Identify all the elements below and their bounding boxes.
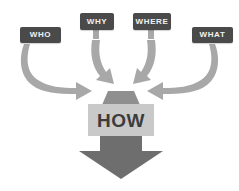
question-box-what-label: WHAT	[200, 31, 226, 39]
output-arrow-icon	[79, 136, 163, 179]
how-banner: HOW	[88, 104, 154, 136]
why-arrow-icon	[91, 40, 114, 84]
diagram-canvas: WHO WHY WHERE WHAT HOW	[0, 0, 239, 191]
question-box-where-label: WHERE	[136, 18, 169, 26]
center-shaft-top	[102, 91, 140, 105]
question-box-what[interactable]: WHAT	[192, 27, 233, 43]
who-arrow-icon	[21, 44, 92, 100]
question-box-where[interactable]: WHERE	[133, 13, 171, 30]
why-connector-stub	[93, 30, 99, 39]
question-box-who[interactable]: WHO	[20, 27, 61, 43]
question-box-who-label: WHO	[30, 31, 51, 39]
where-arrow-icon	[133, 40, 156, 84]
how-label: HOW	[97, 111, 145, 130]
question-box-why-label: WHY	[87, 18, 107, 26]
where-connector-stub	[148, 30, 154, 39]
what-arrow-icon	[147, 44, 218, 100]
question-box-why[interactable]: WHY	[80, 13, 114, 30]
